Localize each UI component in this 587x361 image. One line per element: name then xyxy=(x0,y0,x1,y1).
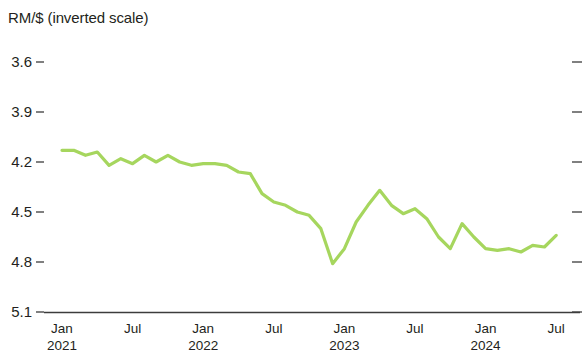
chart-container: RM/$ (inverted scale) 3.63.94.24.54.85.1… xyxy=(0,0,587,361)
x-axis-tick-label: Jul xyxy=(98,320,168,337)
x-axis-tick-year: 2024 xyxy=(451,337,521,354)
x-axis-tick-month: Jul xyxy=(521,320,587,337)
data-series-line xyxy=(62,150,556,263)
y-axis-left-ticks xyxy=(36,62,44,312)
chart-plot-area xyxy=(0,0,587,361)
x-axis-tick-year: 2022 xyxy=(168,337,238,354)
y-axis-right-ticks xyxy=(572,62,582,312)
x-axis-tick-label: Jul xyxy=(239,320,309,337)
x-axis-tick-month: Jul xyxy=(98,320,168,337)
x-axis-tick-month: Jan xyxy=(451,320,521,337)
y-axis-tick-label: 4.8 xyxy=(2,254,32,269)
x-axis-tick-year: 2023 xyxy=(309,337,379,354)
x-axis-tick-label: Jan2021 xyxy=(27,320,97,354)
x-axis-tick-month: Jan xyxy=(309,320,379,337)
y-axis-tick-label: 5.1 xyxy=(2,304,32,319)
y-axis-tick-label: 3.9 xyxy=(2,104,32,119)
x-axis-tick-year: 2021 xyxy=(27,337,97,354)
x-axis-tick-label: Jan2023 xyxy=(309,320,379,354)
x-axis-tick-label: Jan2022 xyxy=(168,320,238,354)
x-axis-tick-label: Jan2024 xyxy=(451,320,521,354)
y-axis-tick-label: 4.2 xyxy=(2,154,32,169)
x-axis-tick-month: Jul xyxy=(239,320,309,337)
x-axis-tick-month: Jan xyxy=(168,320,238,337)
x-axis-tick-month: Jan xyxy=(27,320,97,337)
y-axis-tick-label: 4.5 xyxy=(2,204,32,219)
x-axis-tick-label: Jul xyxy=(380,320,450,337)
y-axis-tick-label: 3.6 xyxy=(2,54,32,69)
x-axis-tick-label: Jul xyxy=(521,320,587,337)
x-axis-tick-month: Jul xyxy=(380,320,450,337)
